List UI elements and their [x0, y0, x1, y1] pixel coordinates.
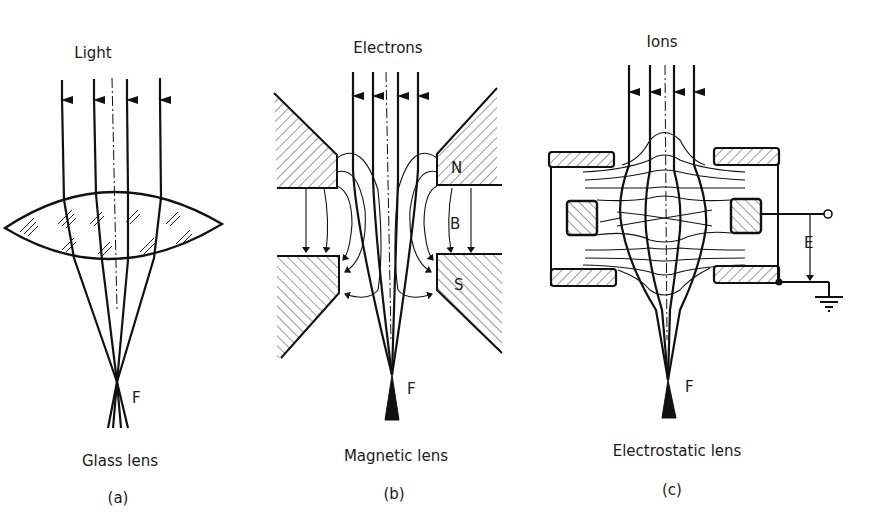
- caption-c: Electrostatic lens: [613, 442, 742, 460]
- glass-lens-shape: [5, 192, 222, 259]
- light-label: Light: [74, 44, 112, 62]
- voltage-circuit: [761, 210, 843, 311]
- panel-electrostatic-lens: Ions: [549, 33, 843, 499]
- north-pole-label: N: [451, 159, 462, 177]
- panel-magnetic-lens: Electrons N S B: [274, 39, 502, 503]
- magnetic-field-label: B: [450, 215, 460, 233]
- electron-beams: [353, 72, 418, 420]
- electrode-top-right: [714, 148, 779, 165]
- light-rays-incoming: [62, 78, 161, 200]
- panel-glass-lens: Light: [5, 44, 222, 507]
- optical-axis-c: [665, 65, 667, 340]
- electrons-label: Electrons: [353, 39, 423, 57]
- south-pole-label: S: [454, 276, 464, 294]
- electrode-inner-right: [731, 199, 761, 233]
- sublabel-c: (c): [662, 481, 682, 499]
- focal-point-label-b: F: [407, 380, 416, 398]
- electric-field-label: E: [804, 234, 813, 252]
- pole-piece-upper-right: [437, 88, 497, 185]
- pole-piece-lower-right: [437, 254, 502, 353]
- terminal-icon: [824, 210, 832, 218]
- sublabel-a: (a): [108, 489, 129, 507]
- electrode-inner-left: [567, 201, 597, 235]
- caption-b: Magnetic lens: [344, 447, 448, 465]
- caption-a: Glass lens: [82, 452, 158, 470]
- focal-point-label-c: F: [685, 378, 694, 396]
- ground-icon: [815, 297, 843, 311]
- lens-comparison-diagram: Light: [0, 0, 879, 528]
- pole-piece-upper-left: [274, 93, 337, 188]
- sublabel-b: (b): [383, 485, 404, 503]
- electrode-bottom-left: [551, 269, 616, 286]
- focal-point-label-a: F: [132, 389, 141, 407]
- optical-axis-b: [386, 72, 391, 340]
- electrode-top-left: [549, 152, 614, 167]
- ions-label: Ions: [647, 33, 678, 51]
- electrode-bottom-right: [714, 266, 779, 283]
- pole-piece-lower-left: [277, 256, 339, 358]
